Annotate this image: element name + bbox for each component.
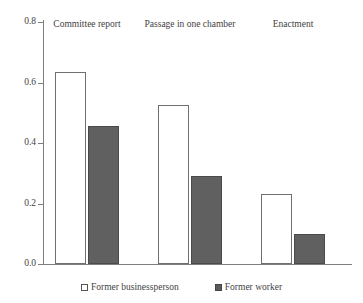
bar-former-worker — [294, 234, 325, 264]
bar-former-businessperson — [261, 194, 292, 264]
y-tick-label: 0.6 — [2, 77, 36, 87]
bar-former-businessperson — [158, 105, 189, 264]
chart-legend: Former businessperson Former worker — [0, 279, 363, 295]
bar-former-worker — [191, 176, 222, 264]
legend-label: Former businessperson — [91, 282, 179, 293]
filled-square-icon — [215, 284, 222, 291]
bar-former-worker — [88, 126, 119, 264]
legend-item-former-worker: Former worker — [215, 282, 282, 293]
y-tick-label: 0.4 — [2, 137, 36, 147]
bar-former-businessperson — [55, 72, 86, 264]
y-tick-label: 0.2 — [2, 198, 36, 208]
legend-item-former-businessperson: Former businessperson — [81, 282, 179, 293]
y-tick-label: 0.0 — [2, 258, 36, 268]
y-tick-mark — [38, 264, 43, 265]
open-square-icon — [81, 284, 88, 291]
x-axis-line — [43, 264, 352, 265]
bar-chart: 0.00.20.40.60.8 Committee reportPassage … — [0, 0, 363, 303]
legend-label: Former worker — [225, 282, 282, 293]
plot-area — [43, 22, 352, 264]
